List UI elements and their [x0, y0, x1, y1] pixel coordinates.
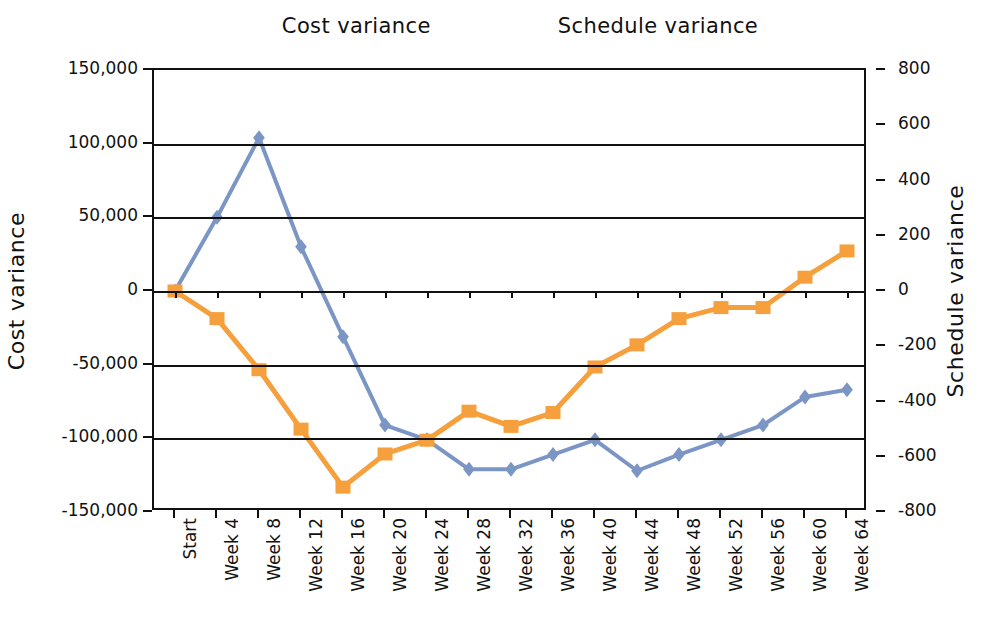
- data-point-marker[interactable]: [672, 312, 687, 325]
- data-point-marker[interactable]: [294, 423, 309, 436]
- data-point-marker[interactable]: [799, 390, 811, 405]
- y-axis-left-tick-mark: [143, 510, 152, 512]
- chart-legend: Cost variance Schedule variance: [0, 14, 985, 38]
- x-axis-tick-mark: [215, 510, 217, 518]
- data-point-marker[interactable]: [547, 447, 559, 462]
- data-point-marker[interactable]: [757, 418, 769, 433]
- y-axis-left-tick-label: -50,000: [18, 353, 138, 373]
- x-axis-tick-mark: [803, 510, 805, 518]
- y-axis-right-tick-mark: [876, 344, 885, 346]
- x-axis-tick-mark: [593, 510, 595, 518]
- x-axis-tick-label: Week 64: [852, 518, 872, 592]
- zero-axis-tick-mark: [679, 291, 681, 298]
- data-point-marker[interactable]: [673, 447, 685, 462]
- gridline: [154, 217, 864, 219]
- data-point-marker[interactable]: [588, 360, 603, 373]
- chart-root: Cost variance Schedule variance Cost var…: [0, 0, 985, 630]
- data-point-marker[interactable]: [798, 271, 813, 284]
- y-axis-left-tick-mark: [143, 289, 152, 291]
- zero-axis-tick-mark: [217, 291, 219, 298]
- data-point-marker[interactable]: [840, 244, 855, 257]
- data-point-marker[interactable]: [714, 301, 729, 314]
- zero-axis-tick-mark: [175, 291, 177, 298]
- x-axis-tick-label: Week 8: [264, 518, 284, 581]
- y-axis-right-tick-label: -200: [898, 334, 985, 354]
- x-axis-tick-label: Week 20: [390, 518, 410, 592]
- diamond-marker-icon: [227, 18, 273, 34]
- y-axis-right-tick-mark: [876, 289, 885, 291]
- x-axis-tick-mark: [299, 510, 301, 518]
- x-axis-tick-mark: [383, 510, 385, 518]
- x-axis-tick-label: Week 52: [726, 518, 746, 592]
- x-axis-tick-label: Week 4: [222, 518, 242, 581]
- data-point-marker[interactable]: [546, 406, 561, 419]
- y-axis-right-tick-mark: [876, 234, 885, 236]
- data-point-marker[interactable]: [841, 382, 853, 397]
- x-axis-tick-mark: [635, 510, 637, 518]
- y-axis-right-tick-mark: [876, 123, 885, 125]
- zero-axis-tick-mark: [595, 291, 597, 298]
- series-line-schedule-variance: [175, 251, 847, 487]
- zero-axis-tick-mark: [553, 291, 555, 298]
- y-axis-left-tick-mark: [143, 215, 152, 217]
- y-axis-right-tick-label: -400: [898, 390, 985, 410]
- gridline: [154, 365, 864, 367]
- x-axis-tick-mark: [677, 510, 679, 518]
- y-axis-right-tick-mark: [876, 68, 885, 70]
- data-point-marker[interactable]: [756, 301, 771, 314]
- gridline: [154, 438, 864, 440]
- data-point-marker[interactable]: [210, 312, 225, 325]
- legend-label-schedule-variance: Schedule variance: [558, 14, 758, 38]
- gridline: [154, 144, 864, 146]
- zero-axis-tick-mark: [343, 291, 345, 298]
- zero-axis-tick-mark: [301, 291, 303, 298]
- x-axis-tick-mark: [845, 510, 847, 518]
- x-axis-tick-mark: [425, 510, 427, 518]
- legend-item-schedule-variance[interactable]: Schedule variance: [503, 14, 758, 38]
- x-axis-tick-label: Week 32: [516, 518, 536, 592]
- x-axis-tick-mark: [761, 510, 763, 518]
- y-axis-right-tick-mark: [876, 179, 885, 181]
- zero-axis-tick-mark: [805, 291, 807, 298]
- y-axis-right-tick-label: 800: [898, 58, 985, 78]
- x-axis-tick-mark: [467, 510, 469, 518]
- data-point-marker[interactable]: [378, 447, 393, 460]
- zero-axis-tick-mark: [511, 291, 513, 298]
- data-point-marker[interactable]: [630, 338, 645, 351]
- y-axis-left-tick-mark: [143, 436, 152, 438]
- data-point-marker[interactable]: [336, 481, 351, 494]
- y-axis-left-tick-label: 100,000: [18, 132, 138, 152]
- x-axis-tick-label: Week 36: [558, 518, 578, 592]
- x-axis-tick-label: Week 44: [642, 518, 662, 592]
- y-axis-right-tick-label: 0: [898, 279, 985, 299]
- zero-axis-tick-mark: [763, 291, 765, 298]
- y-axis-right-tick-label: 200: [898, 224, 985, 244]
- zero-axis-tick-mark: [469, 291, 471, 298]
- y-axis-left-tick-mark: [143, 68, 152, 70]
- y-axis-left-tick-mark: [143, 142, 152, 144]
- zero-axis-tick-mark: [637, 291, 639, 298]
- x-axis-tick-mark: [719, 510, 721, 518]
- legend-diamond-cost: [242, 19, 258, 35]
- zero-axis-tick-mark: [427, 291, 429, 298]
- data-point-marker[interactable]: [504, 420, 519, 433]
- zero-axis-tick-mark: [385, 291, 387, 298]
- y-axis-right-tick-label: 600: [898, 113, 985, 133]
- y-axis-right-tick-label: 400: [898, 169, 985, 189]
- zero-axis-tick-mark: [259, 291, 261, 298]
- x-axis-tick-label: Week 16: [348, 518, 368, 592]
- legend-item-cost-variance[interactable]: Cost variance: [227, 14, 431, 38]
- x-axis-tick-label: Week 40: [600, 518, 620, 592]
- y-axis-right-tick-mark: [876, 400, 885, 402]
- y-axis-right-tick-mark: [876, 455, 885, 457]
- x-axis-tick-label: Week 24: [432, 518, 452, 592]
- x-axis-tick-mark: [173, 510, 175, 518]
- y-axis-left-tick-label: 0: [18, 279, 138, 299]
- y-axis-left-tick-mark: [143, 363, 152, 365]
- plot-area: [152, 68, 866, 510]
- x-axis-tick-mark: [551, 510, 553, 518]
- x-axis-tick-label: Week 56: [768, 518, 788, 592]
- data-point-marker[interactable]: [462, 405, 477, 418]
- x-axis-tick-label: Week 28: [474, 518, 494, 592]
- data-point-marker[interactable]: [505, 462, 517, 477]
